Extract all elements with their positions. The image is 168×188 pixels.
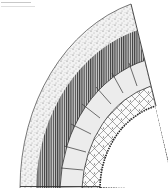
layered-arc-diagram (0, 0, 168, 188)
